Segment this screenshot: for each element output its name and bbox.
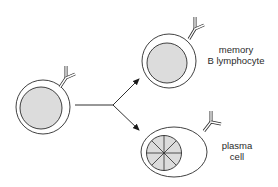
memory-label-line2: B lymphocyte (205, 55, 267, 66)
surface-antibody-icon (60, 66, 75, 87)
activated-b-cell (16, 66, 75, 134)
nucleus (20, 87, 62, 129)
plasma-cell (141, 127, 207, 177)
plasma-label-line1: plasma (215, 140, 259, 151)
memory-label-line1: memory (205, 44, 267, 55)
memory-b-lymphocyte (142, 17, 204, 88)
plasma-label-line2: cell (215, 151, 259, 162)
arrow-to-plasma (113, 105, 139, 130)
secreted-antibody-icon (204, 111, 221, 131)
memory-b-lymphocyte-label: memory B lymphocyte (205, 44, 267, 66)
differentiation-arrows (75, 79, 139, 130)
surface-antibody-icon (189, 17, 204, 39)
nucleus (147, 43, 187, 83)
arrow-to-memory (113, 79, 139, 105)
plasma-cell-label: plasma cell (215, 140, 259, 162)
nucleus-spokes (147, 136, 182, 171)
